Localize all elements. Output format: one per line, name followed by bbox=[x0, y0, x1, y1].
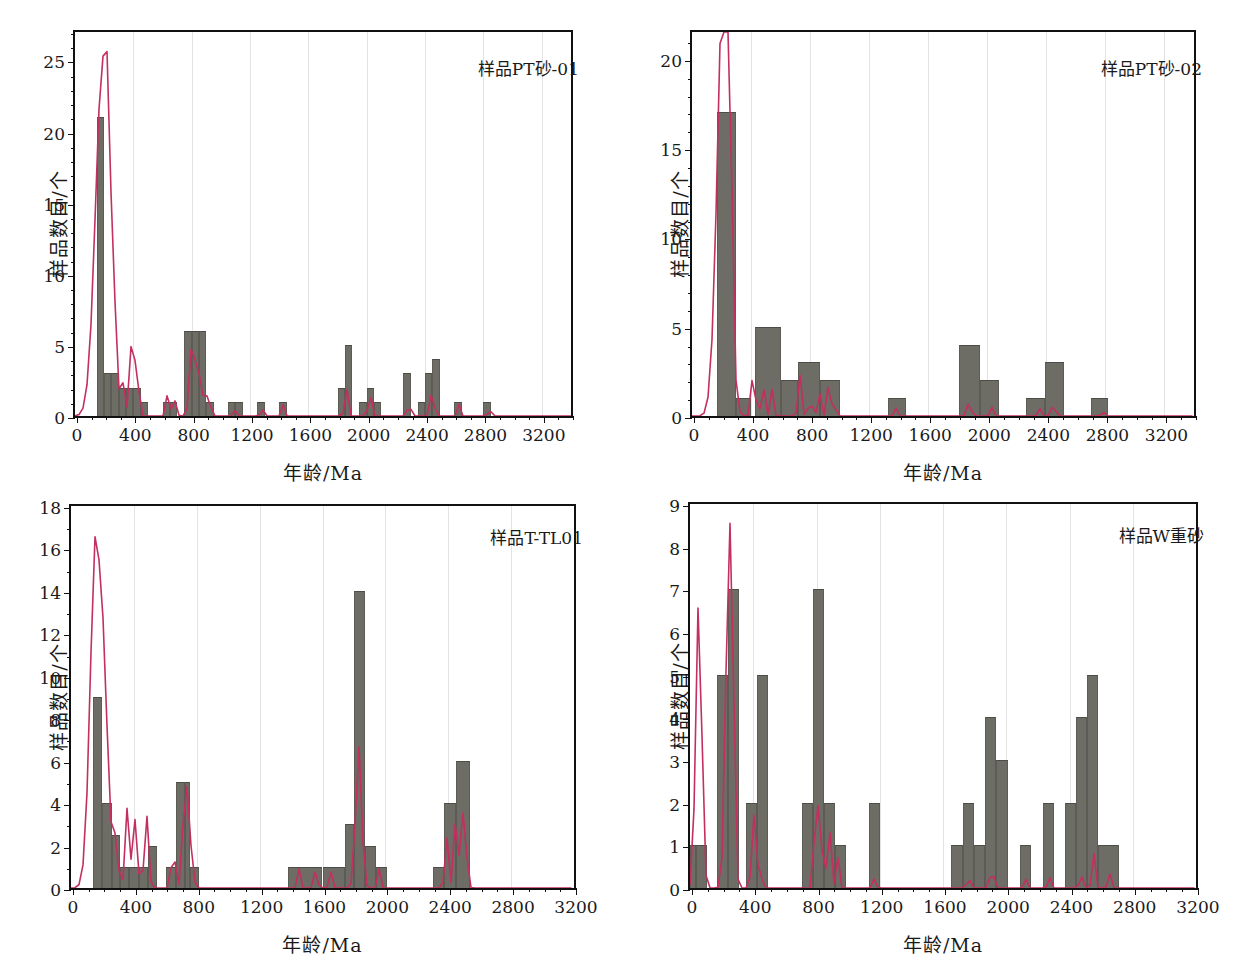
y-tick bbox=[683, 506, 690, 507]
gridline-vertical bbox=[1133, 504, 1134, 888]
y-tick bbox=[64, 848, 71, 849]
x-tick-minor bbox=[739, 888, 740, 892]
x-tick bbox=[694, 416, 695, 423]
x-tick-minor bbox=[573, 416, 574, 420]
y-tick-label: 2 bbox=[669, 795, 680, 815]
histogram-bar bbox=[717, 112, 736, 416]
y-tick-minor bbox=[71, 176, 75, 177]
x-tick bbox=[882, 888, 883, 895]
y-tick bbox=[685, 329, 692, 330]
panel-b-title: 样品PT砂-02 bbox=[1101, 55, 1202, 80]
gridline-vertical bbox=[367, 32, 368, 416]
x-tick-minor bbox=[152, 888, 153, 892]
x-tick bbox=[135, 416, 136, 423]
y-tick-minor bbox=[71, 361, 75, 362]
x-tick-minor bbox=[1063, 416, 1064, 420]
histogram-bar bbox=[996, 760, 1008, 888]
y-tick bbox=[68, 276, 75, 277]
histogram-bar bbox=[1087, 675, 1098, 888]
x-tick-minor bbox=[945, 416, 946, 420]
x-tick-label: 1200 bbox=[230, 425, 273, 445]
x-tick-label: 1600 bbox=[923, 897, 966, 917]
y-tick-label: 0 bbox=[50, 880, 61, 900]
panel-d: 样品数目/个 012345678904008001200160020002400… bbox=[621, 482, 1242, 964]
x-tick-minor bbox=[497, 888, 498, 892]
histogram-bar bbox=[802, 803, 813, 888]
x-tick-minor bbox=[1182, 888, 1183, 892]
histogram-bar bbox=[126, 388, 133, 416]
x-tick-minor bbox=[435, 888, 436, 892]
x-tick-minor bbox=[961, 888, 962, 892]
x-tick-label: 800 bbox=[183, 897, 215, 917]
histogram-bar bbox=[1091, 398, 1109, 416]
x-tick-minor bbox=[1103, 888, 1104, 892]
histogram-bar bbox=[1076, 717, 1087, 888]
y-tick-label: 7 bbox=[669, 581, 680, 601]
histogram-bar bbox=[755, 327, 780, 416]
y-tick bbox=[685, 61, 692, 62]
x-tick bbox=[73, 888, 74, 895]
gridline-vertical bbox=[197, 506, 198, 888]
y-tick-label: 12 bbox=[39, 625, 61, 645]
x-tick-minor bbox=[1151, 888, 1152, 892]
histogram-bar bbox=[129, 867, 138, 888]
x-tick bbox=[199, 888, 200, 895]
y-tick-minor bbox=[71, 404, 75, 405]
x-tick-label: 3200 bbox=[1145, 425, 1188, 445]
x-tick-minor bbox=[529, 416, 530, 420]
y-tick-label: 15 bbox=[660, 140, 682, 160]
y-tick-minor bbox=[688, 222, 692, 223]
y-tick-minor bbox=[67, 529, 71, 530]
x-tick-label: 0 bbox=[68, 897, 79, 917]
y-tick-label: 5 bbox=[54, 337, 65, 357]
x-tick-minor bbox=[356, 888, 357, 892]
histogram-bar bbox=[1065, 803, 1076, 888]
x-tick-minor bbox=[208, 416, 209, 420]
panel-b: 样品数目/个 051015200400800120016002000240028… bbox=[621, 0, 1242, 482]
y-tick-label: 10 bbox=[660, 229, 682, 249]
histogram-bar bbox=[432, 359, 439, 416]
x-tick-minor bbox=[165, 416, 166, 420]
x-tick-label: 3200 bbox=[1176, 897, 1219, 917]
x-tick-label: 3200 bbox=[522, 425, 565, 445]
histogram-bar bbox=[456, 761, 470, 888]
x-tick bbox=[753, 416, 754, 423]
x-tick-minor bbox=[179, 416, 180, 420]
y-tick-label: 10 bbox=[43, 266, 65, 286]
histogram-bar bbox=[367, 388, 374, 416]
y-tick-minor bbox=[67, 784, 71, 785]
x-tick-minor bbox=[929, 888, 930, 892]
y-tick bbox=[68, 205, 75, 206]
histogram-bar bbox=[1020, 845, 1031, 888]
y-tick bbox=[64, 805, 71, 806]
y-tick bbox=[64, 678, 71, 679]
y-tick-label: 15 bbox=[43, 195, 65, 215]
y-tick-minor bbox=[71, 91, 75, 92]
gridline-vertical bbox=[810, 32, 811, 416]
x-tick bbox=[513, 888, 514, 895]
histogram-bar bbox=[1098, 845, 1119, 888]
y-tick-minor bbox=[688, 97, 692, 98]
histogram-bar bbox=[374, 402, 381, 416]
histogram-bar bbox=[963, 803, 974, 888]
y-tick-minor bbox=[688, 204, 692, 205]
x-tick bbox=[871, 416, 872, 423]
y-tick bbox=[683, 890, 690, 891]
panel-a-plot-inner bbox=[75, 32, 571, 416]
x-tick-minor bbox=[277, 888, 278, 892]
x-tick bbox=[576, 888, 577, 895]
histogram-bar bbox=[345, 824, 354, 888]
y-tick-label: 0 bbox=[669, 880, 680, 900]
y-tick bbox=[64, 635, 71, 636]
x-tick-minor bbox=[281, 416, 282, 420]
x-tick-label: 1600 bbox=[909, 425, 952, 445]
x-tick-label: 1200 bbox=[860, 897, 903, 917]
y-tick-label: 18 bbox=[39, 498, 61, 518]
y-tick-minor bbox=[67, 699, 71, 700]
y-tick-minor bbox=[67, 869, 71, 870]
x-tick-minor bbox=[529, 888, 530, 892]
x-tick-minor bbox=[121, 416, 122, 420]
y-tick bbox=[685, 150, 692, 151]
histogram-bar bbox=[717, 675, 728, 888]
x-tick bbox=[812, 416, 813, 423]
